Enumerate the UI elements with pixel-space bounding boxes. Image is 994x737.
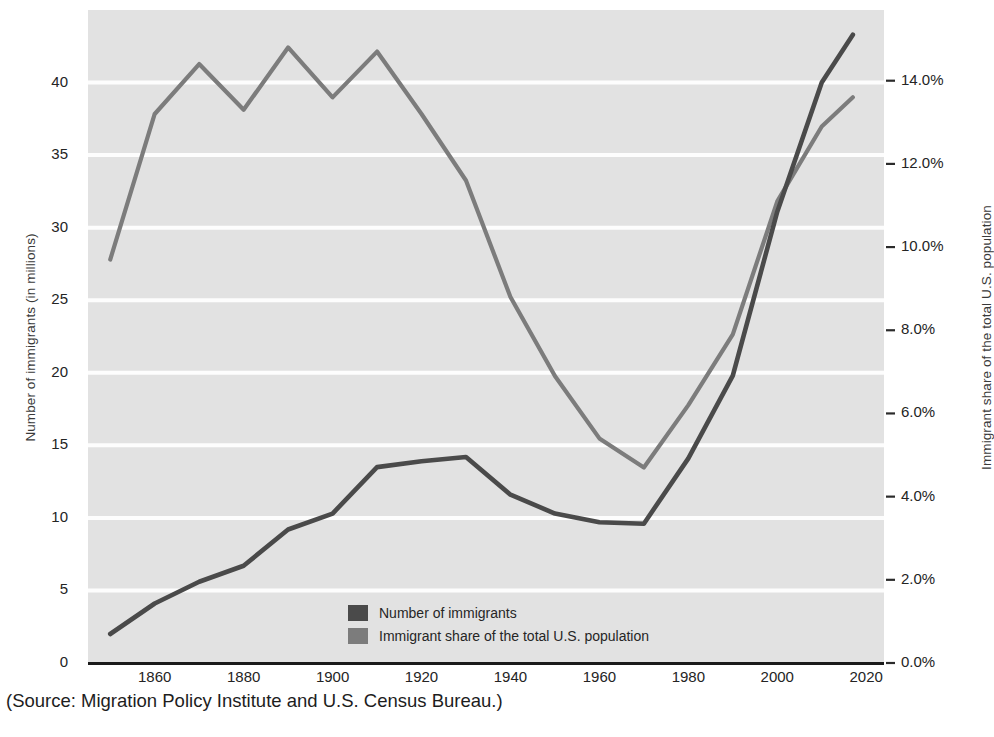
y-axis-right-tick-label: 0.0%: [901, 653, 971, 670]
legend-label-number-of-immigrants: Number of immigrants: [379, 606, 517, 620]
x-axis-tick-label: 2020: [831, 668, 901, 685]
y-axis-right-title: Immigrant share of the total U.S. popula…: [979, 158, 994, 518]
y-axis-left-tick-label: 35: [24, 145, 68, 162]
x-axis-tick-label: 1920: [387, 668, 457, 685]
x-axis-tick-label: 1880: [209, 668, 279, 685]
y-axis-left-tick-label: 0: [24, 653, 68, 670]
source-caption: (Source: Migration Policy Institute and …: [6, 690, 503, 712]
x-axis-tick-label: 1900: [298, 668, 368, 685]
y-axis-right-tick-label: 2.0%: [901, 570, 971, 587]
y-axis-left-tick-label: 5: [24, 580, 68, 597]
y-axis-left-tick-label: 25: [24, 290, 68, 307]
y-axis-right-tick-label: 8.0%: [901, 320, 971, 337]
y-axis-right-tick-label: 12.0%: [901, 154, 971, 171]
y-axis-left-title: Number of immigrants (in millions): [23, 158, 38, 518]
x-axis-tick-label: 1980: [653, 668, 723, 685]
x-axis-tick-label: 1860: [120, 668, 190, 685]
x-axis-tick-label: 2000: [742, 668, 812, 685]
y-axis-right-tick-label: 4.0%: [901, 487, 971, 504]
y-axis-right-tick-label: 6.0%: [901, 403, 971, 420]
plot-background: [88, 10, 884, 663]
y-axis-left-tick-label: 10: [24, 508, 68, 525]
right-axis-tick-marks: [886, 81, 895, 663]
y-axis-left-tick-label: 40: [24, 73, 68, 90]
chart-legend: Number of immigrants Immigrant share of …: [348, 601, 649, 647]
legend-item-number-of-immigrants: Number of immigrants: [348, 601, 649, 624]
x-axis-tick-label: 1960: [564, 668, 634, 685]
legend-item-immigrant-share: Immigrant share of the total U.S. popula…: [348, 624, 649, 647]
y-axis-left-tick-label: 20: [24, 363, 68, 380]
x-axis-tick-label: 1940: [475, 668, 545, 685]
y-axis-right-tick-label: 14.0%: [901, 71, 971, 88]
y-axis-left-tick-label: 15: [24, 435, 68, 452]
y-axis-right-tick-label: 10.0%: [901, 237, 971, 254]
legend-swatch-number-of-immigrants: [348, 605, 368, 621]
legend-label-immigrant-share: Immigrant share of the total U.S. popula…: [379, 629, 649, 643]
y-axis-left-tick-label: 30: [24, 218, 68, 235]
legend-swatch-immigrant-share: [348, 628, 368, 644]
